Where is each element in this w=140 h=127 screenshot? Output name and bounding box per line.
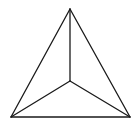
inner-edge-left — [11, 81, 70, 117]
outer-edge-right — [70, 9, 130, 117]
outer-edge-left — [11, 9, 70, 117]
inner-edge-right — [70, 81, 130, 117]
tetrahedron-diagram — [0, 0, 140, 127]
diagram-edges — [11, 9, 130, 117]
